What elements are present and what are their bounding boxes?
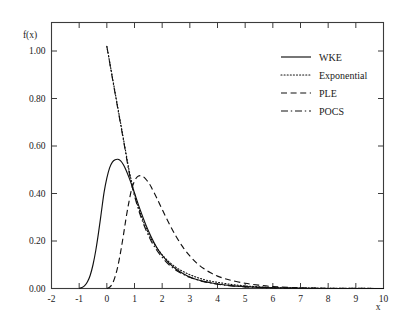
function-plot: -2-1012345678910 0.000.200.400.600.801.0… [0, 0, 403, 328]
y-axis-ticks: 0.000.200.400.600.801.00 [29, 46, 384, 294]
y-tick-label: 0.60 [29, 141, 46, 151]
x-axis-title: x [376, 302, 381, 312]
curve-exponential [107, 46, 384, 288]
x-tick-label: 0 [104, 294, 109, 304]
y-tick-label: 1.00 [29, 46, 46, 56]
legend-label-exponential: Exponential [319, 70, 368, 81]
legend-label-wke: WKE [319, 52, 342, 63]
x-tick-label: -1 [75, 294, 83, 304]
x-tick-label: 5 [243, 294, 248, 304]
curve-pocs [107, 46, 384, 288]
x-tick-label: 9 [353, 294, 358, 304]
x-tick-label: 1 [132, 294, 137, 304]
legend-label-ple: PLE [319, 88, 337, 99]
y-tick-label: 0.80 [29, 94, 46, 104]
chart-legend: WKEExponentialPLEPOCS [281, 52, 368, 117]
data-curves [79, 46, 383, 288]
y-tick-label: 0.00 [29, 284, 46, 294]
x-tick-label: 4 [215, 294, 220, 304]
x-tick-label: 3 [187, 294, 192, 304]
x-tick-label: 6 [270, 294, 275, 304]
x-axis-ticks: -2-1012345678910 [48, 23, 389, 304]
x-tick-label: 8 [326, 294, 331, 304]
y-tick-label: 0.20 [29, 236, 46, 246]
y-axis-title: f(x) [23, 30, 37, 41]
legend-label-pocs: POCS [319, 106, 344, 117]
x-tick-label: -2 [48, 294, 56, 304]
x-tick-label: 7 [298, 294, 303, 304]
x-tick-label: 2 [160, 294, 165, 304]
chart-page: -2-1012345678910 0.000.200.400.600.801.0… [0, 0, 403, 328]
y-tick-label: 0.40 [29, 189, 46, 199]
